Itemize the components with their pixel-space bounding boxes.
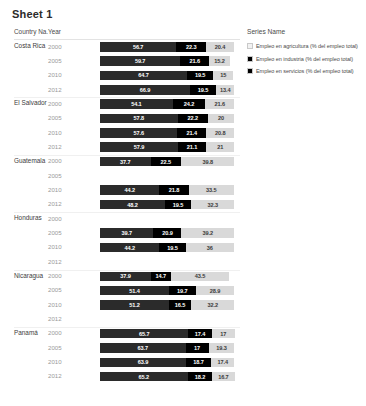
bar-segment-industry[interactable]: 22.5 [151, 157, 181, 167]
bar-segment-services[interactable]: 32.3 [191, 200, 234, 210]
bar-segment-agriculture[interactable]: 48.2 [100, 200, 165, 210]
stacked-bar[interactable]: 48.219.532.3 [100, 200, 235, 210]
table-row[interactable]: 201266.919.513.4 [0, 83, 245, 97]
stacked-bar[interactable]: 57.822.220 [100, 114, 235, 124]
bar-segment-agriculture[interactable]: 37.7 [100, 157, 151, 167]
bar-segment-agriculture[interactable]: 63.7 [100, 343, 186, 353]
bar-segment-services[interactable]: 21 [206, 142, 234, 152]
bar-segment-services[interactable]: 32.2 [191, 300, 234, 310]
stacked-bar[interactable]: 57.921.121 [100, 142, 235, 152]
bar-segment-services[interactable]: 19.3 [209, 343, 235, 353]
bar-segment-agriculture[interactable]: 63.9 [100, 358, 186, 368]
table-row[interactable]: 200539.720.939.2 [0, 226, 245, 240]
table-row[interactable]: 2012 [0, 255, 245, 269]
table-row[interactable]: 201248.219.532.3 [0, 198, 245, 212]
bar-segment-agriculture[interactable]: 65.7 [100, 329, 188, 339]
stacked-bar[interactable]: 65.218.216.7 [100, 372, 235, 382]
bar-segment-industry[interactable]: 19.7 [169, 286, 195, 296]
bar-segment-industry[interactable]: 18.7 [186, 358, 211, 368]
table-row[interactable]: Guatemala200037.722.539.8 [0, 155, 245, 169]
bar-segment-industry[interactable]: 19.5 [165, 200, 191, 210]
stacked-bar[interactable]: 57.621.420.8 [100, 128, 234, 138]
table-row[interactable]: 201265.218.216.7 [0, 370, 245, 384]
bar-segment-services[interactable]: 17.4 [211, 358, 234, 368]
bar-segment-industry[interactable]: 22.2 [178, 114, 208, 124]
table-row[interactable]: Panamá200065.717.417 [0, 327, 245, 341]
column-header-year[interactable]: Year [48, 28, 61, 35]
column-header-country[interactable]: Country Na. [14, 28, 48, 35]
bar-segment-industry[interactable]: 18.2 [188, 372, 212, 382]
bar-segment-services[interactable]: 17 [212, 329, 235, 339]
bar-segment-industry[interactable]: 16.5 [169, 300, 191, 310]
bar-segment-agriculture[interactable]: 37.9 [100, 272, 151, 282]
bar-segment-industry[interactable]: 22.3 [176, 42, 206, 52]
stacked-bar[interactable]: 65.717.417 [100, 329, 235, 339]
stacked-bar[interactable]: 59.721.615.2 [100, 56, 230, 66]
bar-segment-services[interactable]: 20 [208, 114, 235, 124]
table-row[interactable]: Costa Rica200056.722.320.4 [0, 40, 245, 54]
bar-segment-industry[interactable]: 17.4 [188, 329, 211, 339]
bar-segment-services[interactable]: 39.8 [181, 157, 235, 167]
bar-segment-agriculture[interactable]: 51.4 [100, 286, 169, 296]
bar-segment-industry[interactable]: 21.8 [159, 185, 188, 195]
stacked-bar[interactable]: 63.71719.3 [100, 343, 235, 353]
stacked-bar[interactable]: 44.219.536 [100, 243, 234, 253]
table-row[interactable]: Honduras2000 [0, 212, 245, 226]
table-row[interactable]: 201044.219.536 [0, 241, 245, 255]
bar-segment-agriculture[interactable]: 57.8 [100, 114, 178, 124]
bar-segment-services[interactable]: 16.7 [212, 372, 234, 382]
stacked-bar[interactable]: 37.914.743.5 [100, 272, 229, 282]
bar-segment-agriculture[interactable]: 66.9 [100, 85, 190, 95]
bar-segment-agriculture[interactable]: 39.7 [100, 228, 153, 238]
bar-segment-agriculture[interactable]: 59.7 [100, 56, 180, 66]
table-row[interactable]: 201257.921.121 [0, 140, 245, 154]
bar-segment-services[interactable]: 15.2 [209, 56, 229, 66]
bar-segment-agriculture[interactable]: 44.2 [100, 185, 159, 195]
bar-segment-services[interactable]: 20.8 [206, 128, 234, 138]
stacked-bar[interactable]: 44.221.833.5 [100, 185, 234, 195]
bar-segment-industry[interactable]: 21.6 [180, 56, 209, 66]
stacked-bar[interactable]: 56.722.320.4 [100, 42, 234, 52]
table-row[interactable]: 2005 [0, 169, 245, 183]
bar-segment-industry[interactable]: 14.7 [151, 272, 171, 282]
table-row[interactable]: 201063.918.717.4 [0, 356, 245, 370]
bar-segment-services[interactable]: 43.5 [171, 272, 230, 282]
bar-segment-agriculture[interactable]: 65.2 [100, 372, 188, 382]
legend-item-industry[interactable]: Empleo en industria (% del empleo total) [247, 53, 365, 66]
stacked-bar[interactable]: 39.720.939.2 [100, 228, 234, 238]
bar-segment-industry[interactable]: 19.5 [159, 243, 185, 253]
bar-segment-industry[interactable]: 19.5 [190, 85, 216, 95]
stacked-bar[interactable]: 66.919.513.4 [100, 85, 234, 95]
bar-segment-agriculture[interactable]: 57.9 [100, 142, 178, 152]
bar-segment-industry[interactable]: 24.2 [173, 99, 206, 109]
bar-segment-agriculture[interactable]: 44.2 [100, 243, 159, 253]
table-row[interactable]: 201051.216.532.2 [0, 298, 245, 312]
table-row[interactable]: 200551.419.728.9 [0, 284, 245, 298]
bar-segment-industry[interactable]: 19.5 [187, 71, 213, 81]
bar-segment-agriculture[interactable]: 57.6 [100, 128, 177, 138]
table-row[interactable]: 201064.719.515 [0, 69, 245, 83]
table-row[interactable]: 200557.822.220 [0, 112, 245, 126]
bar-segment-services[interactable]: 20.4 [206, 42, 233, 52]
bar-segment-services[interactable]: 33.5 [189, 185, 234, 195]
stacked-bar[interactable]: 37.722.539.8 [100, 157, 235, 167]
table-row[interactable]: El Salvador200054.124.221.6 [0, 97, 245, 111]
table-row[interactable]: Nicaragua200037.914.743.5 [0, 270, 245, 284]
bar-segment-agriculture[interactable]: 64.7 [100, 71, 187, 81]
table-row[interactable]: 200563.71719.3 [0, 341, 245, 355]
bar-segment-services[interactable]: 21.6 [205, 99, 234, 109]
bar-segment-agriculture[interactable]: 56.7 [100, 42, 176, 52]
bar-segment-services[interactable]: 36 [186, 243, 234, 253]
bar-segment-agriculture[interactable]: 51.2 [100, 300, 169, 310]
stacked-bar[interactable]: 64.719.515 [100, 71, 233, 81]
table-row[interactable]: 201057.621.420.8 [0, 126, 245, 140]
stacked-bar[interactable]: 51.419.728.9 [100, 286, 235, 296]
bar-segment-agriculture[interactable]: 54.1 [100, 99, 173, 109]
legend-item-agriculture[interactable]: Empleo en agricultura (% del empleo tota… [247, 40, 365, 53]
stacked-bar[interactable]: 63.918.717.4 [100, 358, 235, 368]
stacked-bar[interactable]: 54.124.221.6 [100, 99, 234, 109]
bar-segment-services[interactable]: 15 [213, 71, 233, 81]
bar-segment-services[interactable]: 39.2 [181, 228, 234, 238]
stacked-bar[interactable]: 51.216.532.2 [100, 300, 234, 310]
table-row[interactable]: 200559.721.615.2 [0, 54, 245, 68]
